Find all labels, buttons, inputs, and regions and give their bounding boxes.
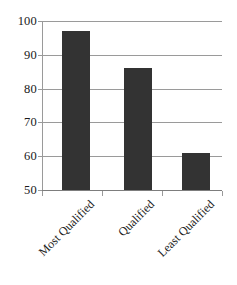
x-axis-category-labels: Most Qualified Qualified Least Qualified	[0, 190, 237, 285]
gridline-100	[42, 21, 222, 22]
bar-most-qualified	[62, 31, 90, 190]
bar-chart: 100 90 80 70 60 50 Most Qualified Qualif…	[0, 0, 237, 285]
y-tick-label-70: 70	[4, 116, 37, 129]
y-tick-label-100: 100	[4, 15, 37, 28]
y-tick-label-80: 80	[4, 83, 37, 96]
bar-qualified	[124, 68, 152, 190]
y-tick-label-90: 90	[4, 49, 37, 62]
plot-area	[42, 21, 222, 190]
bar-least-qualified	[182, 153, 210, 190]
y-tick-label-60: 60	[4, 150, 37, 163]
